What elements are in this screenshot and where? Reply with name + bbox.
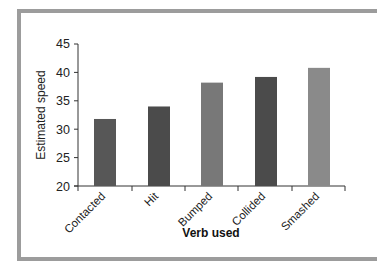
x-ticks [78, 186, 345, 191]
bar-contacted [94, 119, 116, 186]
y-tick-label: 45 [56, 37, 70, 51]
y-axis-title: Estimated speed [34, 70, 48, 159]
bar-bumped [201, 83, 223, 186]
y-tick-labels: 20 25 30 35 40 45 [56, 37, 70, 194]
x-tick-label-smashed: Smashed [279, 190, 322, 233]
x-tick-label-bumped: Bumped [176, 190, 215, 229]
bar-collided [255, 77, 277, 186]
bar-hit [148, 106, 170, 186]
bars [94, 68, 330, 186]
x-axis-title: Verb used [182, 226, 239, 240]
x-tick-label-collided: Collided [230, 190, 268, 228]
bar-smashed [308, 68, 330, 186]
y-tick-label: 20 [56, 180, 70, 194]
y-ticks [74, 44, 78, 186]
x-tick-label-contacted: Contacted [62, 190, 108, 236]
y-tick-label: 40 [56, 66, 70, 80]
x-tick-label-hit: Hit [142, 189, 161, 208]
y-tick-label: 30 [56, 123, 70, 137]
y-tick-label: 25 [56, 151, 70, 165]
y-tick-label: 35 [56, 94, 70, 108]
